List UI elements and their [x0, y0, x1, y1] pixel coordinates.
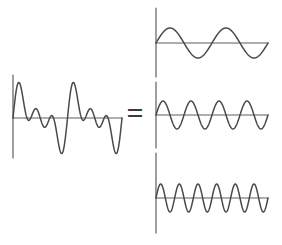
equals-sign: =: [123, 100, 147, 126]
fourier-decomposition-figure: =: [0, 0, 282, 245]
harmonic-3-plot: [156, 153, 268, 233]
harmonic-2-plot: [156, 82, 268, 148]
composite-plot: [13, 75, 122, 158]
harmonic-1-plot: [156, 8, 268, 77]
